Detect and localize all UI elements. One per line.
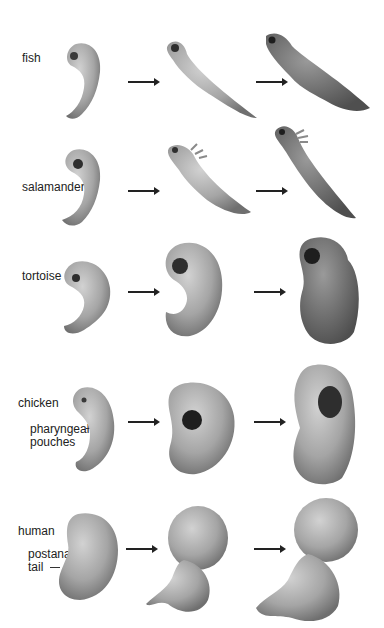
chicken-embryo-late bbox=[286, 362, 362, 488]
salamander-embryo-mid bbox=[165, 140, 255, 220]
arrow-chicken-1 bbox=[128, 421, 156, 423]
arrow-fish-1 bbox=[128, 81, 156, 83]
label-pouches: pouches bbox=[30, 436, 75, 449]
label-human: human bbox=[18, 525, 55, 538]
arrow-tortoise-2 bbox=[254, 291, 282, 293]
chicken-embryo-mid bbox=[164, 380, 238, 478]
label-tortoise: tortoise bbox=[22, 270, 61, 283]
salamander-embryo-early bbox=[60, 144, 108, 230]
label-tail: tail bbox=[28, 561, 43, 574]
tortoise-embryo-early bbox=[60, 258, 116, 338]
human-fetus-late bbox=[252, 496, 364, 624]
arrow-salamander-1 bbox=[128, 190, 156, 192]
fish-embryo-early bbox=[62, 38, 108, 122]
fish-embryo-mid bbox=[165, 38, 261, 122]
label-chicken: chicken bbox=[18, 397, 59, 410]
human-fetus-mid bbox=[144, 504, 234, 616]
label-fish: fish bbox=[22, 52, 41, 65]
tortoise-embryo-late bbox=[292, 236, 362, 348]
tortoise-embryo-mid bbox=[160, 240, 226, 340]
salamander-embryo-late bbox=[272, 122, 362, 222]
arrow-tortoise-1 bbox=[128, 291, 156, 293]
human-embryo-early bbox=[56, 510, 120, 602]
chicken-embryo-early bbox=[70, 384, 120, 474]
fish-embryo-late bbox=[262, 30, 374, 124]
arrow-chicken-2 bbox=[254, 421, 282, 423]
